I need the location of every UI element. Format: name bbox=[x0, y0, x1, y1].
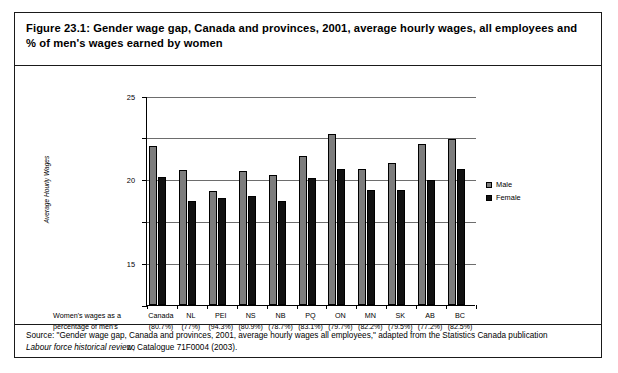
source-catalogue: , Catalogue 71F0004 (2003). bbox=[133, 343, 238, 352]
x-axis-label-on: ON(79.7%) bbox=[325, 311, 355, 332]
bar-female[interactable] bbox=[367, 190, 375, 305]
x-axis-label-ns: NS(80.9%) bbox=[236, 311, 266, 332]
bar-group bbox=[207, 96, 237, 305]
x-tick bbox=[476, 305, 477, 309]
bar-group bbox=[237, 96, 267, 305]
bar-female[interactable] bbox=[248, 196, 256, 305]
x-axis-label-mn: MN(82.2%) bbox=[355, 311, 385, 332]
x-tick bbox=[326, 305, 327, 309]
bar-group bbox=[297, 96, 327, 305]
y-tick-label-15: 15 bbox=[127, 259, 135, 268]
bar-group bbox=[386, 96, 416, 305]
legend-item-female: Female bbox=[486, 192, 521, 205]
x-axis-label-name: AB bbox=[425, 311, 435, 320]
source-line-1: Source: "Gender wage gap, Canada and pro… bbox=[26, 331, 548, 340]
bar-female[interactable] bbox=[188, 201, 196, 305]
legend-swatch-male-icon bbox=[486, 182, 492, 188]
x-axis-caption: Women's wages as a percentage of men's bbox=[53, 311, 145, 332]
plot-area: 0510152025 bbox=[146, 97, 475, 306]
x-axis-label-name: BC bbox=[455, 311, 465, 320]
bar-female[interactable] bbox=[278, 201, 286, 306]
bar-group bbox=[326, 96, 356, 305]
x-axis-label-ab: AB(77.2%) bbox=[415, 311, 445, 332]
x-axis-label-name: Canada bbox=[148, 311, 173, 320]
x-axis-label-name: MN bbox=[365, 311, 376, 320]
x-tick bbox=[237, 305, 238, 309]
bar-female[interactable] bbox=[158, 177, 166, 305]
legend-label-male: Male bbox=[496, 179, 512, 192]
bar-group bbox=[416, 96, 446, 305]
y-tick-label-20: 20 bbox=[127, 176, 135, 185]
bar-female[interactable] bbox=[308, 178, 316, 305]
bar-male[interactable] bbox=[269, 175, 277, 305]
bar-male[interactable] bbox=[179, 170, 187, 305]
bar-group bbox=[267, 96, 297, 305]
x-tick bbox=[207, 305, 208, 309]
bar-male[interactable] bbox=[239, 171, 247, 305]
x-axis-label-pei: PEI(94.3%) bbox=[206, 311, 236, 332]
bar-male[interactable] bbox=[149, 146, 157, 305]
title-divider bbox=[15, 65, 601, 66]
x-axis-label-name: NB bbox=[276, 311, 286, 320]
x-axis-label-name: SK bbox=[395, 311, 405, 320]
bar-group bbox=[177, 96, 207, 305]
figure-container: Figure 23.1: Gender wage gap, Canada and… bbox=[14, 12, 602, 358]
x-axis-label-sk: SK(79.5%) bbox=[385, 311, 415, 332]
bar-female[interactable] bbox=[457, 169, 465, 305]
bar-group bbox=[147, 96, 177, 305]
bar-female[interactable] bbox=[218, 198, 226, 305]
bar-female[interactable] bbox=[397, 190, 405, 305]
source-publication-title: Labour force historical review bbox=[26, 343, 133, 352]
x-axis-label-nb: NB(78.7%) bbox=[266, 311, 296, 332]
x-tick bbox=[267, 305, 268, 309]
bar-male[interactable] bbox=[328, 134, 336, 305]
bar-male[interactable] bbox=[358, 169, 366, 305]
y-tick-label-25: 25 bbox=[127, 92, 135, 101]
x-axis-label-nl: NL(77%) bbox=[176, 311, 206, 332]
figure-title: Figure 23.1: Gender wage gap, Canada and… bbox=[26, 21, 584, 51]
bar-male[interactable] bbox=[299, 156, 307, 305]
bar-male[interactable] bbox=[209, 191, 217, 305]
chart-area: Average Hourly Wages 0510152025 Women's … bbox=[15, 68, 601, 320]
x-tick bbox=[416, 305, 417, 309]
x-tick bbox=[177, 305, 178, 309]
bar-group bbox=[446, 96, 476, 305]
y-axis-title: Average Hourly Wages bbox=[43, 135, 50, 245]
legend-label-female: Female bbox=[496, 192, 521, 205]
x-tick bbox=[356, 305, 357, 309]
x-axis-label-name: PEI bbox=[215, 311, 227, 320]
bar-male[interactable] bbox=[418, 144, 426, 305]
x-tick bbox=[446, 305, 447, 309]
x-tick bbox=[297, 305, 298, 309]
x-axis-label-pq: PQ(83.1%) bbox=[296, 311, 326, 332]
bar-male[interactable] bbox=[448, 139, 456, 305]
chart-legend: Male Female bbox=[486, 179, 521, 204]
x-axis-label-canada: Canada(80.7%) bbox=[146, 311, 176, 332]
x-axis-label-bc: BC(82.5%) bbox=[445, 311, 475, 332]
legend-swatch-female-icon bbox=[486, 195, 492, 201]
x-tick bbox=[386, 305, 387, 309]
legend-item-male: Male bbox=[486, 179, 521, 192]
x-axis-label-name: PQ bbox=[305, 311, 315, 320]
source-note: Source: "Gender wage gap, Canada and pro… bbox=[26, 330, 586, 353]
x-axis-label-name: ON bbox=[335, 311, 346, 320]
x-axis-label-name: NL bbox=[186, 311, 195, 320]
x-axis-label-name: NS bbox=[246, 311, 256, 320]
source-divider bbox=[15, 324, 601, 325]
x-tick bbox=[147, 305, 148, 309]
bar-female[interactable] bbox=[427, 180, 435, 305]
bar-female[interactable] bbox=[337, 169, 345, 305]
bar-group bbox=[356, 96, 386, 305]
bar-male[interactable] bbox=[388, 163, 396, 305]
